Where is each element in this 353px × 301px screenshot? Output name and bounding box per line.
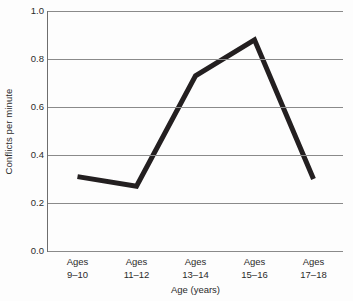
- x-tick-line-1: Ages: [283, 256, 345, 269]
- line-chart-figure: Conflicts per minute 1.00.80.60.40.20.0 …: [0, 0, 353, 301]
- x-tick-line-1: Ages: [165, 256, 227, 269]
- x-axis-title: Age (years): [48, 284, 343, 295]
- x-axis-tick-label: Ages11–12: [106, 256, 168, 281]
- y-axis-tick-label: 0.6: [2, 101, 44, 113]
- x-tick-line-2: 9–10: [47, 269, 109, 282]
- gridline-y: [48, 203, 343, 204]
- gridline-y: [48, 155, 343, 156]
- gridline-y: [48, 251, 343, 252]
- x-tick-line-1: Ages: [47, 256, 109, 269]
- plot-area: [48, 11, 343, 251]
- y-axis-tick-label: 0.4: [2, 149, 44, 161]
- x-tick-line-2: 11–12: [106, 269, 168, 282]
- x-tick-line-1: Ages: [106, 256, 168, 269]
- series-line: [78, 40, 314, 186]
- gridline-y: [48, 11, 343, 12]
- y-axis-tick-label: 0.0: [2, 245, 44, 257]
- y-axis-tick-label: 0.8: [2, 53, 44, 65]
- x-tick-line-2: 13–14: [165, 269, 227, 282]
- x-tick-line-1: Ages: [224, 256, 286, 269]
- x-axis-tick-labels: Ages9–10Ages11–12Ages13–14Ages15–16Ages1…: [48, 256, 343, 286]
- x-axis-tick-label: Ages13–14: [165, 256, 227, 281]
- y-axis-tick-label: 1.0: [2, 5, 44, 17]
- y-axis-tick-label: 0.2: [2, 197, 44, 209]
- x-tick-line-2: 17–18: [283, 269, 345, 282]
- x-tick-line-2: 15–16: [224, 269, 286, 282]
- x-axis-tick-label: Ages17–18: [283, 256, 345, 281]
- y-axis-tick-labels: 1.00.80.60.40.20.0: [0, 0, 44, 301]
- conflicts-per-minute-series: [48, 11, 343, 251]
- x-axis-tick-label: Ages15–16: [224, 256, 286, 281]
- gridline-y: [48, 107, 343, 108]
- x-axis-tick-label: Ages9–10: [47, 256, 109, 281]
- gridline-y: [48, 59, 343, 60]
